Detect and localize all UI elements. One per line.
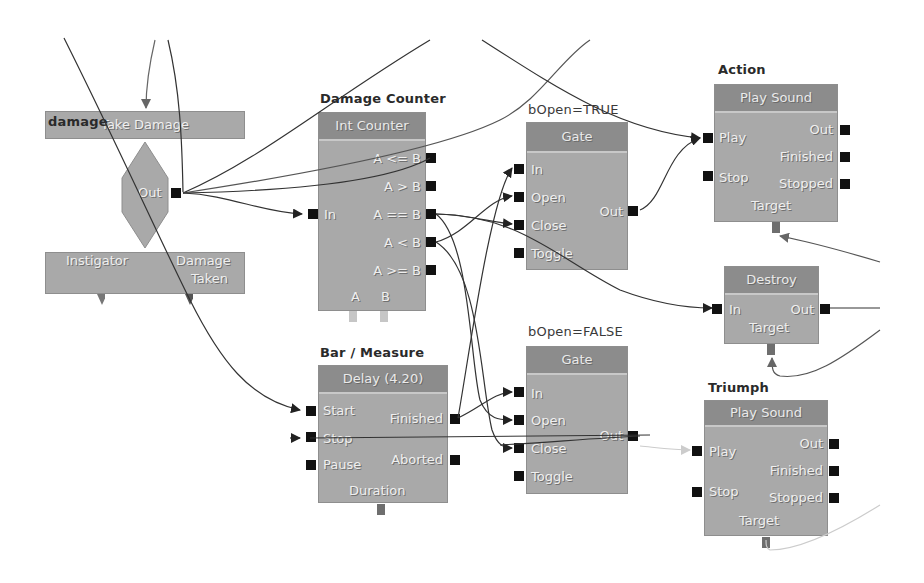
output-label-0: A <= B <box>373 152 421 166</box>
action-out-pin[interactable] <box>840 125 850 135</box>
output-label-out: Out <box>799 437 823 451</box>
action-stop-pin[interactable] <box>703 171 713 181</box>
gate-true-toggle-pin[interactable] <box>514 248 524 258</box>
input-label-toggle: Toggle <box>531 247 573 261</box>
gate-false-toggle-pin[interactable] <box>514 471 524 481</box>
output-label-out: Out <box>809 123 833 137</box>
delay-start-pin[interactable] <box>306 406 316 416</box>
gate-false-close-pin[interactable] <box>514 443 524 453</box>
output-label-finished: Finished <box>770 464 823 478</box>
input-label-pause: Pause <box>323 458 361 472</box>
wire-to-delay-start <box>64 38 300 410</box>
counter-out-pin-2[interactable] <box>426 209 436 219</box>
damage-taken-var-pin[interactable] <box>185 294 193 305</box>
input-label-in: In <box>531 387 543 401</box>
gate-true-in-pin[interactable] <box>514 164 524 174</box>
triumph-finished-pin[interactable] <box>829 466 839 476</box>
input-label-play: Play <box>709 445 736 459</box>
action-stopped-pin[interactable] <box>840 179 850 189</box>
counter-var-a-pin[interactable] <box>349 311 357 322</box>
comment-bopen-false: bOpen=FALSE <box>528 324 623 339</box>
gate-true-open-pin[interactable] <box>514 192 524 202</box>
destroy-out-pin[interactable] <box>820 304 830 314</box>
counter-out-pin-3[interactable] <box>426 237 436 247</box>
action-play-sound-node[interactable]: Play Sound Play Stop Out Finished Stoppe… <box>714 84 838 222</box>
triumph-stopped-pin[interactable] <box>829 493 839 503</box>
output-label-1: A > B <box>384 180 421 194</box>
var-a-label: A <box>351 290 360 304</box>
input-label-close: Close <box>531 219 566 233</box>
triumph-stop-pin[interactable] <box>692 487 702 497</box>
output-label-out: Out <box>790 303 814 317</box>
counter-out-pin-0[interactable] <box>426 153 436 163</box>
triumph-play-sound-node[interactable]: Play Sound Play Stop Out Finished Stoppe… <box>704 400 828 536</box>
var-target-label: Target <box>749 321 789 335</box>
destroy-target-var-pin[interactable] <box>767 344 775 355</box>
node-header: Delay (4.20) <box>319 366 447 394</box>
comment-bar-measure: Bar / Measure <box>320 345 424 360</box>
gate-true-close-pin[interactable] <box>514 220 524 230</box>
counter-out-pin-1[interactable] <box>426 181 436 191</box>
triumph-out-pin[interactable] <box>829 439 839 449</box>
output-label-stopped: Stopped <box>779 177 833 191</box>
input-label-open: Open <box>531 191 566 205</box>
var-duration-label: Duration <box>349 484 405 498</box>
var-instigator: Instigator <box>66 253 128 268</box>
output-label-2: A == B <box>373 208 421 222</box>
output-label-3: A < B <box>384 236 421 250</box>
var-b-label: B <box>381 290 390 304</box>
output-label-stopped: Stopped <box>769 491 823 505</box>
int-counter-node[interactable]: Int Counter In A <= B A > B A == B A < B… <box>318 112 426 311</box>
delay-aborted-pin[interactable] <box>450 455 460 465</box>
triumph-play-pin[interactable] <box>692 446 702 456</box>
comment-triumph: Triumph <box>708 380 769 395</box>
delay-duration-var-pin[interactable] <box>377 504 385 515</box>
comment-action: Action <box>718 62 766 77</box>
comment-bopen-true: bOpen=TRUE <box>528 102 619 117</box>
triumph-target-var-pin[interactable] <box>762 537 770 548</box>
input-label-in: In <box>729 303 741 317</box>
destroy-in-pin[interactable] <box>712 304 722 314</box>
output-label-4: A >= B <box>373 264 421 278</box>
var-target-label: Target <box>739 514 779 528</box>
instigator-var-pin[interactable] <box>97 294 105 305</box>
counter-out-pin-4[interactable] <box>426 265 436 275</box>
gate-false-open-pin[interactable] <box>514 415 524 425</box>
node-header: Int Counter <box>319 113 425 141</box>
in-label: In <box>324 208 336 222</box>
node-header: Gate <box>527 123 627 153</box>
node-header: Gate <box>527 347 627 375</box>
event-out-label: Out <box>138 186 162 200</box>
input-label-stop: Stop <box>719 171 749 185</box>
event-vars-box: Instigator Damage Taken <box>45 252 245 294</box>
delay-stop-pin[interactable] <box>306 432 316 442</box>
event-out-pin[interactable] <box>171 188 181 198</box>
delay-pause-pin[interactable] <box>306 460 316 470</box>
gate-false-out-pin[interactable] <box>628 431 638 441</box>
action-finished-pin[interactable] <box>840 152 850 162</box>
delay-node[interactable]: Delay (4.20) Start Stop Pause Finished A… <box>318 365 448 503</box>
node-header: Destroy <box>725 267 818 295</box>
input-label-play: Play <box>719 131 746 145</box>
action-play-pin[interactable] <box>703 133 713 143</box>
input-label-stop: Stop <box>323 432 353 446</box>
var-damage-taken-2: Taken <box>191 271 228 286</box>
input-label-start: Start <box>323 404 355 418</box>
input-label-close: Close <box>531 442 566 456</box>
input-label-toggle: Toggle <box>531 470 573 484</box>
gate-true-out-pin[interactable] <box>628 206 638 216</box>
node-header: Play Sound <box>705 401 827 427</box>
counter-in-pin[interactable] <box>308 209 318 219</box>
wire-out-to-counter-in <box>183 193 302 214</box>
gate-true-node[interactable]: Gate In Open Close Toggle Out <box>526 122 628 270</box>
output-label-out: Out <box>599 205 623 219</box>
input-label-open: Open <box>531 414 566 428</box>
comment-damage: damage <box>48 114 108 129</box>
destroy-node[interactable]: Destroy In Out Target <box>724 266 819 344</box>
gate-false-in-pin[interactable] <box>514 387 524 397</box>
action-target-var-pin[interactable] <box>772 222 780 233</box>
gate-false-node[interactable]: Gate In Open Close Toggle Out <box>526 346 628 494</box>
input-label-stop: Stop <box>709 485 739 499</box>
counter-var-b-pin[interactable] <box>380 311 388 322</box>
delay-finished-pin[interactable] <box>450 414 460 424</box>
